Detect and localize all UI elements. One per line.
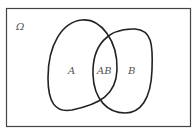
intersection-label: AB [96, 65, 112, 76]
venn-diagram: Ω A AB B [0, 0, 196, 136]
set-b-label: B [127, 65, 135, 76]
universe-label: Ω [15, 21, 24, 32]
set-a-label: A [67, 65, 75, 76]
